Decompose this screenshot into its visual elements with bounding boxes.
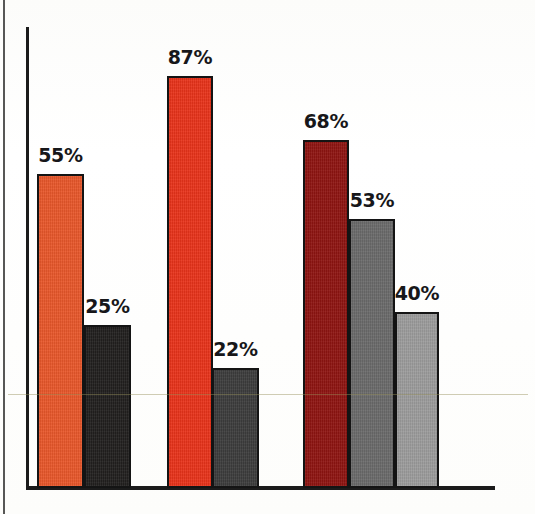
chart-page: 55% 25% 87% 22% 68% 53% 40% — [0, 0, 537, 514]
bar-55-percent[interactable] — [37, 174, 84, 488]
y-axis-line — [26, 27, 29, 489]
bar-label-25: 25% — [78, 295, 137, 317]
bar-40-percent[interactable] — [395, 312, 439, 488]
bar-label-53: 53% — [343, 189, 401, 211]
bar-label-68: 68% — [297, 110, 355, 132]
bar-87-percent[interactable] — [167, 76, 213, 488]
bar-22-percent[interactable] — [212, 368, 259, 488]
bar-label-40: 40% — [389, 282, 445, 304]
plot-area: 55% 25% 87% 22% 68% 53% 40% — [0, 0, 537, 514]
bar-label-55: 55% — [31, 144, 90, 166]
bar-25-percent[interactable] — [84, 325, 131, 488]
bar-label-87: 87% — [161, 46, 219, 68]
bar-label-22: 22% — [206, 338, 265, 360]
bar-53-percent[interactable] — [349, 219, 395, 488]
